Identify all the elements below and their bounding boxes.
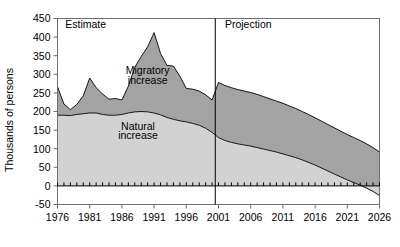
y-axis-tick-label: 0 <box>45 180 51 192</box>
x-axis-tick-label: 1976 <box>46 211 70 223</box>
y-axis-tick-label: 200 <box>33 105 51 117</box>
y-axis-tick-label: 450 <box>33 12 51 24</box>
x-axis-tick-label: 1986 <box>110 211 134 223</box>
x-axis-tick-label: 2016 <box>303 211 327 223</box>
x-axis-tick-label: 1981 <box>78 211 102 223</box>
y-axis-title: Thousands of persons <box>3 68 15 172</box>
y-axis-tick-label: -50 <box>35 198 50 210</box>
y-axis-tick-label: 150 <box>33 124 51 136</box>
x-axis-tick-label: 2001 <box>207 211 231 223</box>
chart-container: Thousands of persons -500501001502002503… <box>0 0 400 247</box>
y-axis-tick-label: 250 <box>33 87 51 99</box>
y-axis-tick-label: 400 <box>33 31 51 43</box>
x-axis-tick-label: 1991 <box>142 211 166 223</box>
migratory-increase-label-2: increase <box>128 74 168 86</box>
y-axis-tick-label: 100 <box>33 143 51 155</box>
projection-label: Projection <box>225 18 272 30</box>
x-axis-tick-label: 2026 <box>368 211 392 223</box>
natural-increase-label-2: increase <box>118 129 158 141</box>
y-axis-tick-label: 350 <box>33 50 51 62</box>
x-axis-tick-label: 2006 <box>239 211 263 223</box>
y-axis-tick-label: 50 <box>39 161 51 173</box>
x-axis-tick-label: 2021 <box>336 211 360 223</box>
x-axis-tick-label: 1996 <box>175 211 199 223</box>
x-axis-tick-label: 2011 <box>272 211 295 223</box>
y-axis-tick-label: 300 <box>33 68 51 80</box>
population-change-area-chart: Thousands of persons -500501001502002503… <box>0 0 400 247</box>
estimate-label: Estimate <box>65 18 106 30</box>
